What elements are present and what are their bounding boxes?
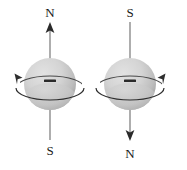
pole-label-bottom-right: N: [125, 146, 135, 161]
pole-label-top-left: N: [45, 5, 55, 20]
spin-magnetic-moment-diagram: N S S: [0, 0, 187, 170]
pole-label-bottom-left: S: [46, 143, 53, 158]
charge-minus-sign-left: [44, 80, 56, 83]
charge-minus-sign-right: [124, 80, 136, 83]
diagram-canvas: N S S: [0, 0, 187, 170]
pole-label-top-right: S: [126, 5, 133, 20]
